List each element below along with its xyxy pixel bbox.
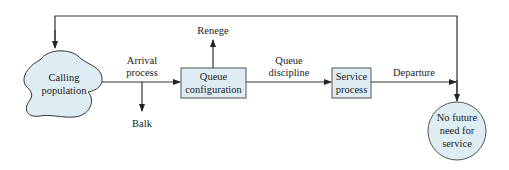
service-process-line2: process	[332, 83, 371, 96]
queue-configuration-line1: Queue	[181, 70, 246, 83]
service-process-label: Service process	[332, 70, 371, 96]
calling-population-label: Calling population	[36, 71, 92, 97]
arrival-process-line1: Arrival	[116, 55, 168, 67]
queue-discipline-label: Queue discipline	[262, 55, 316, 79]
departure-label: Departure	[387, 67, 441, 79]
no-future-need-label: No future need for service	[428, 111, 486, 150]
queue-discipline-line1: Queue	[262, 55, 316, 67]
balk-label: Balk	[126, 118, 158, 130]
queue-configuration-line2: configuration	[181, 83, 246, 96]
service-process-line1: Service	[332, 70, 371, 83]
queue-configuration-label: Queue configuration	[181, 70, 246, 96]
queue-discipline-line2: discipline	[262, 67, 316, 79]
arrival-process-label: Arrival process	[116, 55, 168, 79]
arrival-process-line2: process	[116, 67, 168, 79]
no-future-need-line2: need for	[428, 124, 486, 137]
no-future-need-line1: No future	[428, 111, 486, 124]
no-future-need-line3: service	[428, 137, 486, 150]
calling-population-line2: population	[36, 84, 92, 97]
renege-label: Renege	[193, 25, 233, 37]
calling-population-line1: Calling	[36, 71, 92, 84]
